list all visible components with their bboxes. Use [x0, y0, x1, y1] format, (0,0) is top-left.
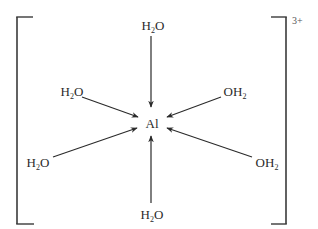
- ligand-main: OH: [256, 155, 275, 170]
- ligand-subscript: 2: [242, 92, 246, 101]
- right-bracket: [271, 17, 287, 224]
- bond-arrow-lower-right: [167, 128, 252, 157]
- ligand-main: H: [61, 84, 70, 99]
- charge-label: 3+: [292, 16, 303, 26]
- ligand-main: OH: [224, 84, 243, 99]
- left-bracket: [16, 17, 34, 224]
- bond-arrow-lower-left: [53, 128, 137, 157]
- central-atom-symbol: Al: [146, 116, 159, 131]
- ligand-subscript: 2: [274, 163, 278, 172]
- ligand-upper-right: OH2: [224, 85, 247, 98]
- ligand-tail: O: [74, 84, 83, 99]
- ligand-lower-left: H2O: [27, 156, 50, 169]
- bonds-and-brackets: [0, 0, 318, 229]
- bond-arrow-upper-right: [167, 97, 221, 117]
- complex-ion-diagram: Al 3+ H2O H2O OH2 H2O OH2 H2O: [0, 0, 318, 229]
- central-atom-label: Al: [146, 117, 159, 130]
- bond-arrow-upper-left: [82, 97, 138, 117]
- ligand-tail: O: [155, 18, 164, 33]
- ligand-main: H: [141, 207, 150, 222]
- ligand-top: H2O: [142, 19, 165, 32]
- ligand-main: H: [27, 155, 36, 170]
- ligand-tail: O: [40, 155, 49, 170]
- charge-value: 3+: [292, 15, 303, 26]
- ligand-upper-left: H2O: [61, 85, 84, 98]
- ligand-bottom: H2O: [141, 208, 164, 221]
- ligand-main: H: [142, 18, 151, 33]
- ligand-lower-right: OH2: [256, 156, 279, 169]
- ligand-tail: O: [154, 207, 163, 222]
